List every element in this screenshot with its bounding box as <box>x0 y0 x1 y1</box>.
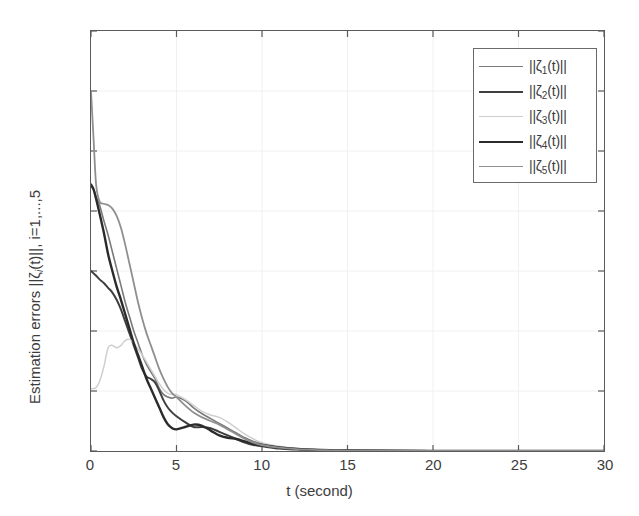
legend-item-label: ||ζ3(t)|| <box>529 108 567 126</box>
legend-item-5[interactable]: ||ζ5(t)|| <box>479 154 592 179</box>
legend-line-swatch <box>479 141 523 143</box>
legend-item-3[interactable]: ||ζ3(t)|| <box>479 104 592 129</box>
legend-line-swatch <box>479 166 523 167</box>
x-tick-label: 15 <box>339 456 356 473</box>
x-tick-label: 0 <box>86 456 94 473</box>
x-tick-label: 30 <box>597 456 614 473</box>
legend-item-label: ||ζ5(t)|| <box>529 158 567 176</box>
legend-item-1[interactable]: ||ζ1(t)|| <box>479 54 592 79</box>
y-axis-title-suffix: (t)||, i=1,...,5 <box>26 190 43 270</box>
legend-line-swatch <box>479 66 523 67</box>
x-tick-label: 20 <box>425 456 442 473</box>
x-axis-title: t (second) <box>0 482 639 499</box>
estimation-error-chart: 00.511.522.533.5 051015202530 Estimation… <box>0 0 639 516</box>
legend-line-swatch <box>479 116 523 117</box>
legend-item-label: ||ζ4(t)|| <box>529 133 567 151</box>
legend-item-2[interactable]: ||ζ2(t)|| <box>479 79 592 104</box>
legend-item-label: ||ζ2(t)|| <box>529 83 567 101</box>
legend-line-swatch <box>479 91 523 93</box>
x-tick-label: 5 <box>172 456 180 473</box>
legend-box: ||ζ1(t)||||ζ2(t)||||ζ3(t)||||ζ4(t)||||ζ5… <box>473 48 597 183</box>
legend-item-label: ||ζ1(t)|| <box>529 58 567 76</box>
x-tick-label: 25 <box>511 456 528 473</box>
x-tick-label: 10 <box>253 456 270 473</box>
y-axis-title-prefix: Estimation errors ||ζ <box>26 272 43 404</box>
y-axis-title: Estimation errors ||ζi(t)||, i=1,...,5 <box>26 190 45 404</box>
y-axis-title-subscript: i <box>34 270 45 272</box>
legend-item-4[interactable]: ||ζ4(t)|| <box>479 129 592 154</box>
